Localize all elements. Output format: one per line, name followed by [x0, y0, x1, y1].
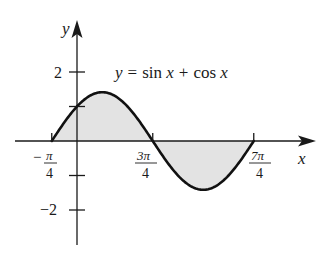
x-tick-label-neg-pi-over-4: − π 4 — [33, 148, 57, 181]
svg-text:3π: 3π — [136, 148, 151, 163]
svg-text:−: − — [33, 149, 41, 165]
svg-text:y=sin x+cos x: y=sin x+cos x — [113, 63, 228, 82]
equation-label: y=sin x+cos x — [113, 63, 228, 82]
svg-text:4: 4 — [46, 166, 53, 181]
svg-text:4: 4 — [142, 166, 149, 181]
svg-text:π: π — [46, 148, 53, 163]
shaded-region-positive — [52, 92, 153, 141]
x-tick-label-7pi-over-4: 7π 4 — [249, 148, 271, 181]
y-tick-label-2: 2 — [54, 64, 62, 81]
x-tick-label-3pi-over-4: 3π 4 — [135, 148, 157, 181]
sine-cosine-chart: y x 2 −2 − π 4 3π 4 7π 4 y=sin x+cos x — [0, 0, 333, 256]
svg-text:7π: 7π — [251, 148, 265, 163]
x-axis-label: x — [297, 149, 306, 168]
y-axis-label: y — [60, 19, 70, 38]
svg-text:4: 4 — [256, 166, 263, 181]
y-tick-label-neg2: −2 — [40, 201, 57, 218]
shaded-region-negative — [153, 141, 254, 190]
